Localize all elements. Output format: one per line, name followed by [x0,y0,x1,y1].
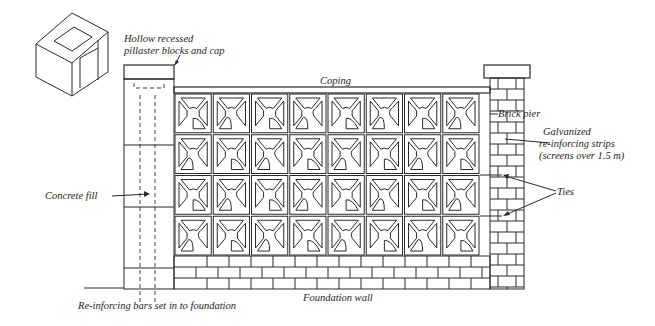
screen-block [290,216,326,255]
left-pilaster [84,65,174,305]
screen-block [443,135,479,174]
screen-block [252,216,288,255]
screen-block-grid [175,94,479,255]
screen-block [175,176,211,215]
screen-block [175,216,211,255]
label-coping: Coping [320,75,351,86]
screen-block [443,176,479,215]
label-rebar: Re-inforcing bars set in to foundation [78,300,236,311]
screen-block [328,216,364,255]
pilaster-block-icon [36,13,108,96]
screen-block [213,216,249,255]
screen-block [213,176,249,215]
label-foundation: Foundation wall [303,292,373,303]
screen-block [366,176,402,215]
screen-block [213,94,249,133]
screen-block [405,135,441,174]
label-galvanized-line1: Galvanized [543,126,591,137]
screen-block [328,176,364,215]
screen-block [213,135,249,174]
screen-block [443,216,479,255]
screen-block [366,216,402,255]
screen-block [328,135,364,174]
screen-block [405,216,441,255]
screen-block [290,135,326,174]
screen-block [252,176,288,215]
label-concrete-fill: Concrete fill [45,190,97,201]
label-pilaster-line2: pillaster blocks and cap [124,45,225,56]
screen-block [290,176,326,215]
label-pilaster-line1: Hollow recessed [124,33,193,44]
diagram-drawing [0,0,655,326]
coping [174,87,490,93]
screen-block [252,135,288,174]
label-galvanized-line2: re-inforcing strips [539,138,615,149]
screen-block [328,94,364,133]
screen-block [366,94,402,133]
screen-block [405,94,441,133]
screen-block [443,94,479,133]
screen-block [252,94,288,133]
label-galvanized-line3: (screens over 1.5 m) [539,150,624,161]
screen-block [175,135,211,174]
wall-diagram: Hollow recessed pillaster blocks and cap… [0,0,655,326]
foundation-wall [174,256,490,289]
screen-block [405,176,441,215]
screen-block [175,94,211,133]
label-ties: Ties [557,186,574,197]
label-brick-pier: Brick pier [498,108,540,119]
screen-block [290,94,326,133]
screen-block [366,135,402,174]
